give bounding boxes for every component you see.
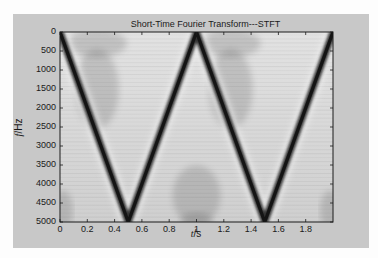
y-tick-label: 4500 xyxy=(20,197,56,207)
x-tick-label: 1.4 xyxy=(239,224,263,234)
y-tick-label: 1500 xyxy=(20,83,56,93)
x-tick-label: 0 xyxy=(48,224,72,234)
y-tick-label: 2500 xyxy=(20,121,56,131)
y-axis-unit: /Hz xyxy=(13,119,24,134)
x-tick-label: 0.2 xyxy=(75,224,99,234)
y-axis-variable: f xyxy=(13,134,24,137)
y-tick-label: 0 xyxy=(20,26,56,36)
x-tick-label: 0.4 xyxy=(103,224,127,234)
spectrogram-plot xyxy=(13,14,369,248)
y-tick-label: 500 xyxy=(20,45,56,55)
x-tick-label: 1.6 xyxy=(266,224,290,234)
y-tick-label: 3500 xyxy=(20,159,56,169)
x-tick-label: 0.6 xyxy=(130,224,154,234)
y-tick-label: 3000 xyxy=(20,140,56,150)
y-tick-label: 2000 xyxy=(20,102,56,112)
figure-window: Short-Time Fourier Transform---STFT 0500… xyxy=(13,14,369,248)
y-axis-label: f/Hz xyxy=(13,108,24,148)
x-axis-unit: /s xyxy=(194,228,202,239)
x-tick-label: 1.8 xyxy=(294,224,318,234)
y-tick-label: 1000 xyxy=(20,64,56,74)
y-tick-label: 4000 xyxy=(20,178,56,188)
x-axis-label: t/s xyxy=(176,228,216,239)
